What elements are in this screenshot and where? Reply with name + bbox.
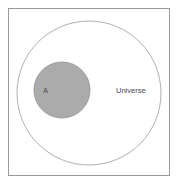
venn-diagram-canvas: A Universe xyxy=(0,0,178,185)
universe-label: Universe xyxy=(116,86,146,95)
set-a-label: A xyxy=(43,86,48,95)
venn-diagram-figure: A Universe xyxy=(0,0,178,185)
